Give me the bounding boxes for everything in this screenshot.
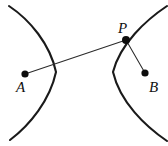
point-a-dot (21, 70, 28, 77)
segment-p-to-b (126, 40, 145, 73)
geometry-canvas: A P B (0, 0, 168, 146)
point-a-label: A (15, 79, 26, 95)
point-p-label: P (117, 20, 127, 36)
segment-a-to-p (25, 40, 126, 74)
point-b-dot (141, 69, 148, 76)
point-b-label: B (149, 79, 158, 95)
point-p-dot (122, 36, 130, 44)
geometry-figure: A P B (0, 0, 168, 146)
left-hyperbola-branch-curve (9, 6, 56, 140)
